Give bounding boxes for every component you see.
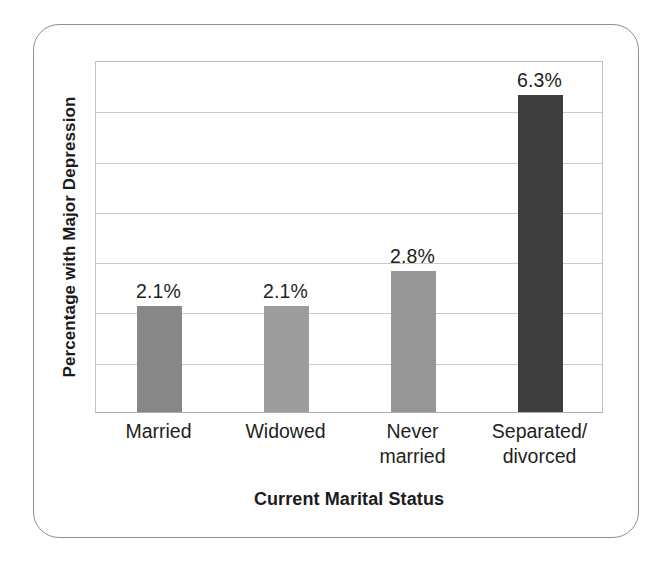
bar	[518, 95, 563, 412]
category-label-line: Widowed	[245, 420, 325, 442]
y-axis-title-text: Percentage with Major Depression	[56, 61, 84, 413]
category-label-line: Married	[125, 420, 191, 442]
plot-area	[95, 61, 603, 413]
y-axis-title: Percentage with Major Depression	[56, 61, 84, 413]
x-axis-title: Current Marital Status	[95, 489, 603, 510]
bar	[391, 271, 436, 412]
figure-container: Percentage with Major Depression 2.1%2.1…	[0, 0, 648, 570]
category-label-line: Separated/	[492, 420, 587, 442]
x-axis-title-text: Current Marital Status	[254, 489, 444, 509]
bar-value-label: 6.3%	[517, 69, 562, 92]
bar	[264, 306, 309, 412]
bar	[137, 306, 182, 412]
category-label-line: Never	[386, 420, 438, 442]
bar-value-label: 2.1%	[263, 280, 308, 303]
category-label: Married	[125, 419, 191, 444]
category-label-line: married	[379, 444, 445, 469]
category-label: Separated/divorced	[492, 419, 587, 469]
category-label-line: divorced	[492, 444, 587, 469]
bar-value-label: 2.8%	[390, 245, 435, 268]
category-label: Nevermarried	[379, 419, 445, 469]
category-label: Widowed	[245, 419, 325, 444]
bar-value-label: 2.1%	[136, 280, 181, 303]
